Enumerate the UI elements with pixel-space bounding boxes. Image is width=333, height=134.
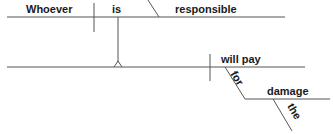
clause-predicate-adjective: responsible (175, 3, 237, 15)
article: the (285, 101, 304, 121)
sentence-diagram: Whoever is responsible will pay for dama… (0, 0, 333, 134)
main-verb: will pay (220, 53, 262, 65)
clause-subject: Whoever (26, 3, 73, 15)
pedestal-foot (114, 61, 122, 67)
preposition: for (228, 69, 246, 88)
object-of-preposition: damage (267, 85, 309, 97)
clause-complement-divider (148, 0, 159, 17)
clause-verb: is (112, 3, 121, 15)
